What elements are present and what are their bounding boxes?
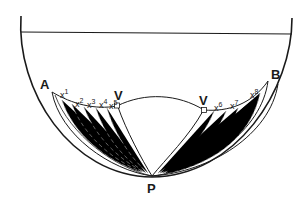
point-x6: x6	[214, 101, 222, 113]
left-band-hatching	[62, 100, 148, 173]
label-a: A	[40, 78, 49, 91]
point-x5: x5	[109, 99, 117, 111]
diagram-canvas: A B P V V x1 x2 x3 x4 x5 x6 x7 x8	[0, 0, 305, 199]
point-x8: x8	[250, 88, 258, 100]
point-x4: x4	[99, 98, 107, 110]
diagram-drawing	[0, 0, 305, 199]
horizontal-chord	[21, 32, 292, 34]
point-x1: x1	[60, 88, 68, 100]
point-x7: x7	[230, 99, 238, 111]
label-v-right: V	[199, 94, 208, 107]
point-x3: x3	[87, 98, 95, 110]
label-b: B	[271, 68, 280, 81]
point-x2: x2	[75, 97, 83, 109]
label-p: P	[147, 182, 156, 195]
v-connecting-arc	[117, 97, 204, 110]
v-marker-right	[202, 108, 207, 113]
